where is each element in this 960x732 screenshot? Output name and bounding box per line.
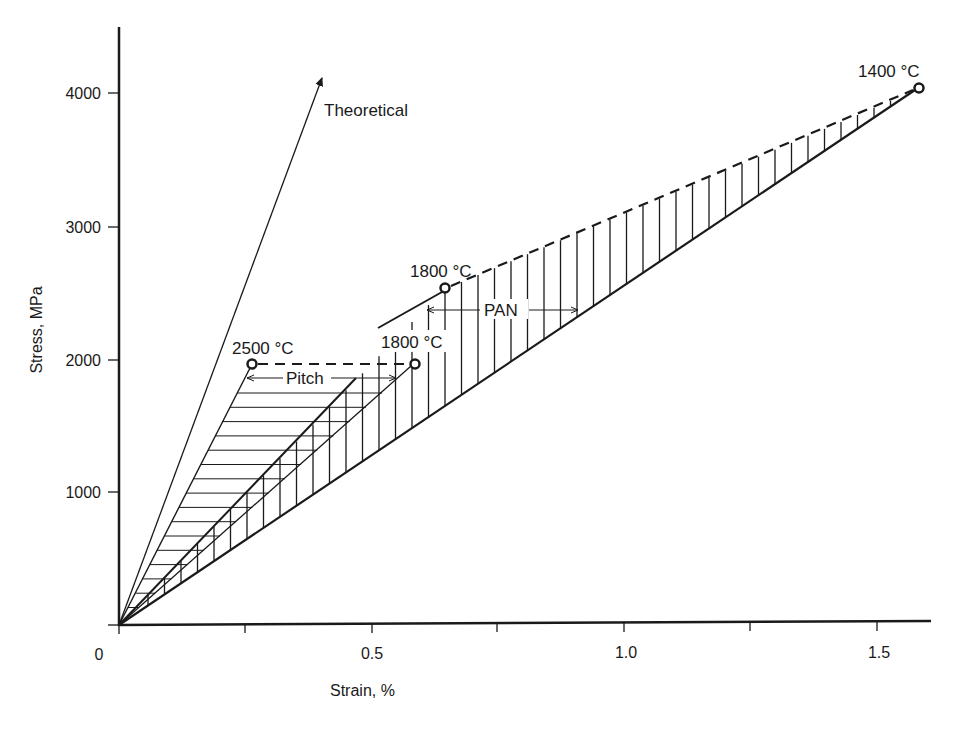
label-pitch: Pitch — [286, 369, 324, 388]
label-pan: PAN — [484, 301, 518, 320]
marker-pan-1400 — [915, 84, 924, 93]
pitch-2500-line — [119, 368, 250, 625]
label-2500c: 2500 °C — [232, 339, 294, 358]
label-1400c: 1400 °C — [858, 62, 920, 81]
pan-1800-line — [119, 378, 356, 625]
x-tick-label-10: 1.0 — [615, 644, 637, 661]
x-axis-title: Strain, % — [330, 682, 395, 699]
theoretical-label: Theoretical — [324, 101, 408, 120]
pan-range-dashed — [451, 90, 913, 286]
x-tick-label-05: 0.5 — [361, 645, 383, 662]
marker-pan-1800 — [441, 284, 450, 293]
axes — [108, 27, 931, 634]
y-tick-label-2000: 2000 — [65, 352, 101, 369]
y-axis-title: Stress, MPa — [28, 286, 45, 373]
pitch-1800-line — [119, 366, 411, 625]
stress-strain-chart: 4000 3000 2000 1000 0 0.5 1.0 1.5 Strain… — [0, 0, 960, 732]
marker-pitch-2500 — [248, 360, 257, 369]
y-tick-label-1000: 1000 — [65, 484, 101, 501]
y-tick-label-3000: 3000 — [65, 219, 101, 236]
y-tick-label-4000: 4000 — [65, 85, 101, 102]
x-tick-label-15: 1.5 — [868, 644, 890, 661]
x-axis — [118, 621, 931, 625]
label-pitch-1800c: 1800 °C — [381, 333, 443, 352]
end-markers — [248, 84, 924, 369]
x-tick-label-0: 0 — [95, 646, 104, 663]
label-pan-1800c: 1800 °C — [410, 262, 472, 281]
marker-pitch-1800 — [411, 360, 420, 369]
